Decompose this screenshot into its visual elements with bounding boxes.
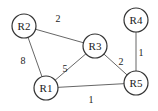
edge-r1-r5 [46, 83, 136, 88]
node-label: R1 [40, 82, 53, 94]
node-label: R4 [130, 14, 143, 26]
edge-weight-label: 2 [56, 13, 61, 24]
edge-weight-label: 8 [21, 55, 26, 66]
node-r4: R4 [124, 8, 148, 32]
node-r2: R2 [12, 14, 36, 38]
graph-svg: 285121 R1R2R3R4R5 [0, 0, 158, 111]
node-r1: R1 [34, 76, 58, 100]
node-r5: R5 [124, 71, 148, 95]
edge-weight-label: 1 [89, 94, 94, 105]
node-label: R3 [89, 40, 102, 52]
network-graph: 285121 R1R2R3R4R5 [0, 0, 158, 111]
edge-line [46, 83, 136, 88]
node-label: R2 [18, 20, 31, 32]
node-r3: R3 [83, 34, 107, 58]
node-label: R5 [130, 77, 143, 89]
edge-weight-label: 2 [119, 56, 124, 67]
edge-weight-label: 5 [63, 63, 68, 74]
edge-weight-label: 1 [139, 47, 144, 58]
